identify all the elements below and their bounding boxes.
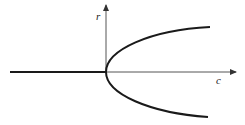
c-axis-label: c	[216, 74, 221, 86]
lower-branch	[106, 72, 208, 117]
r-axis-label: r	[96, 10, 101, 22]
upper-branch	[106, 27, 210, 72]
bifurcation-diagram: r c	[0, 0, 245, 125]
